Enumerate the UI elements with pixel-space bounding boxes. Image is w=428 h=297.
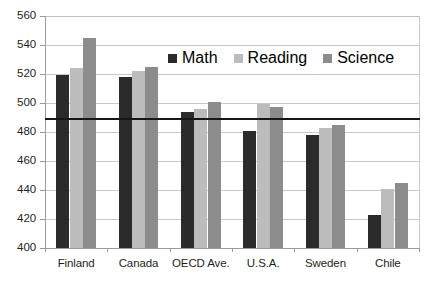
bar-chile-reading xyxy=(381,189,394,248)
legend-swatch-math-icon xyxy=(168,54,177,63)
bar-u-s-a-science xyxy=(270,107,283,248)
legend-item-reading: Reading xyxy=(234,50,308,66)
plot-right-border xyxy=(419,16,420,249)
x-tick-label-u-s-a: U.S.A. xyxy=(232,258,294,270)
bar-sweden-math xyxy=(306,135,319,248)
bar-finland-science xyxy=(83,38,96,248)
bar-canada-reading xyxy=(132,71,145,248)
gridline-480 xyxy=(45,132,419,133)
bar-sweden-reading xyxy=(319,128,332,248)
x-tick-mark-1 xyxy=(107,248,108,252)
bar-u-s-a-math xyxy=(243,131,256,248)
bar-u-s-a-reading xyxy=(257,104,270,248)
y-tick-mark-420 xyxy=(40,219,45,220)
gridline-560 xyxy=(45,16,419,17)
gridline-500 xyxy=(45,103,419,104)
gridline-460 xyxy=(45,161,419,162)
y-tick-label-420: 420 xyxy=(17,213,36,225)
bar-chile-math xyxy=(368,215,381,248)
legend-swatch-reading-icon xyxy=(234,54,243,63)
x-tick-mark-3 xyxy=(232,248,233,252)
y-tick-label-440: 440 xyxy=(17,184,36,196)
gridline-520 xyxy=(45,74,419,75)
y-tick-mark-480 xyxy=(40,132,45,133)
x-tick-mark-2 xyxy=(170,248,171,252)
y-axis-line xyxy=(45,16,46,249)
x-tick-mark-4 xyxy=(294,248,295,252)
y-tick-mark-460 xyxy=(40,161,45,162)
x-tick-label-sweden: Sweden xyxy=(294,258,356,270)
y-tick-mark-440 xyxy=(40,190,45,191)
y-tick-mark-560 xyxy=(40,16,45,17)
legend-swatch-science-icon xyxy=(323,54,332,63)
y-tick-label-400: 400 xyxy=(17,242,36,254)
x-tick-mark-0 xyxy=(45,248,46,252)
bar-oecd-ave-science xyxy=(208,102,221,248)
legend-label-reading: Reading xyxy=(248,50,308,66)
y-tick-label-520: 520 xyxy=(17,68,36,80)
bar-oecd-ave-reading xyxy=(194,109,207,248)
legend-label-science: Science xyxy=(337,50,394,66)
legend-label-math: Math xyxy=(182,50,218,66)
x-tick-label-canada: Canada xyxy=(107,258,169,270)
x-tick-mark-6 xyxy=(419,248,420,252)
y-tick-mark-540 xyxy=(40,45,45,46)
y-tick-label-540: 540 xyxy=(17,39,36,51)
bar-canada-math xyxy=(119,77,132,248)
oecd-average-reference-line xyxy=(45,118,420,120)
chart-legend: Math Reading Science xyxy=(168,50,394,66)
gridline-440 xyxy=(45,190,419,191)
y-tick-label-500: 500 xyxy=(17,97,36,109)
bar-oecd-ave-math xyxy=(181,112,194,248)
y-tick-label-560: 560 xyxy=(17,10,36,22)
y-tick-mark-520 xyxy=(40,74,45,75)
x-tick-label-oecd-ave: OECD Ave. xyxy=(170,258,232,270)
gridline-540 xyxy=(45,45,419,46)
bar-sweden-science xyxy=(332,125,345,248)
y-tick-label-460: 460 xyxy=(17,155,36,167)
legend-item-science: Science xyxy=(323,50,394,66)
x-tick-mark-5 xyxy=(357,248,358,252)
x-tick-label-chile: Chile xyxy=(357,258,419,270)
gridline-420 xyxy=(45,219,419,220)
bar-chile-science xyxy=(395,183,408,248)
bar-chart: 560540520500480460440420400 FinlandCanad… xyxy=(0,0,428,297)
y-tick-label-480: 480 xyxy=(17,126,36,138)
bar-finland-math xyxy=(56,75,69,248)
y-tick-mark-500 xyxy=(40,103,45,104)
bar-finland-reading xyxy=(70,68,83,248)
bar-canada-science xyxy=(145,67,158,248)
legend-item-math: Math xyxy=(168,50,218,66)
x-tick-label-finland: Finland xyxy=(45,258,107,270)
